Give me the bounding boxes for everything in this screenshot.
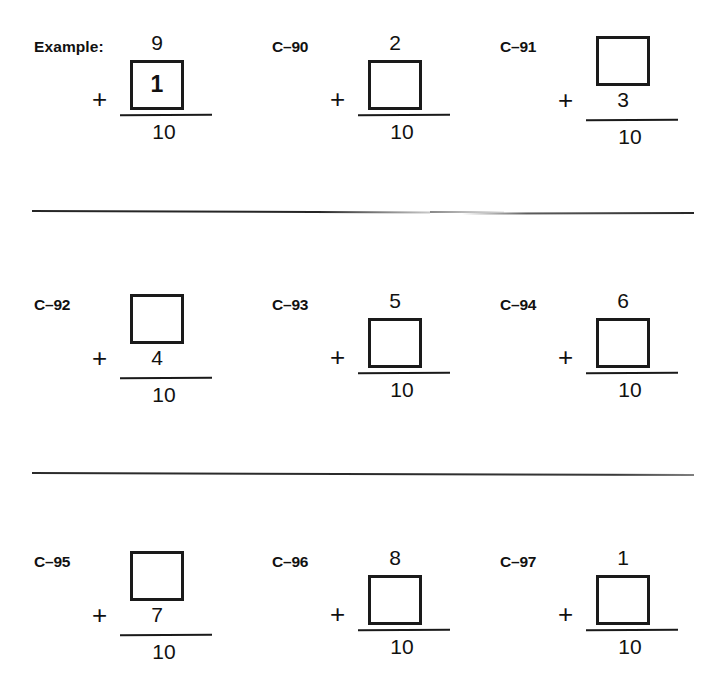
problem-c-93: C–93 5 + 10 — [272, 288, 487, 423]
problem-label: C–92 — [34, 296, 70, 314]
addend-bottom: 4 — [126, 345, 188, 371]
plus-sign: + — [92, 602, 107, 628]
sum-value: 10 — [590, 377, 670, 403]
problem-c-90: C–90 2 + 10 — [272, 30, 487, 165]
addend-top: 8 — [364, 545, 426, 571]
addend-bottom: 3 — [592, 87, 654, 113]
bottom-term-row: + 3 — [592, 87, 702, 115]
plus-sign: + — [92, 345, 107, 371]
top-term-row: 6 — [592, 288, 702, 316]
sum-rule — [586, 119, 678, 121]
problem-stack: 2 + 10 — [364, 30, 474, 145]
bottom-term-row: + 4 — [126, 345, 236, 373]
plus-sign: + — [558, 87, 573, 113]
sum-value: 10 — [362, 377, 442, 403]
plus-sign: + — [330, 86, 345, 112]
bottom-term-row: + 1 — [126, 60, 236, 110]
answer-box[interactable]: 1 — [130, 60, 184, 110]
answer-box[interactable] — [130, 551, 184, 601]
problem-label: C–93 — [272, 296, 308, 314]
problem-stack: 8 + 10 — [364, 545, 474, 660]
problem-c-91: C–91 + 3 10 — [500, 30, 715, 165]
bottom-term-row: + — [364, 60, 474, 110]
problem-label: C–95 — [34, 553, 70, 571]
divider-segment — [32, 472, 694, 476]
divider-segment — [430, 211, 504, 213]
problem-label: C–90 — [272, 38, 308, 56]
problem-stack: + 4 10 — [126, 288, 236, 408]
problem-stack: + 3 10 — [592, 30, 702, 150]
problem-stack: 5 + 10 — [364, 288, 474, 403]
sum-value: 10 — [362, 634, 442, 660]
sum-rule — [358, 114, 450, 116]
sum-value: 10 — [124, 382, 204, 408]
sum-rule — [586, 372, 678, 374]
sum-rule — [586, 629, 678, 631]
plus-sign: + — [558, 344, 573, 370]
top-term-row: 8 — [364, 545, 474, 573]
answer-box[interactable] — [368, 575, 422, 625]
answer-box[interactable] — [596, 575, 650, 625]
sum-rule — [120, 634, 212, 636]
problem-c-92: C–92 + 4 10 — [34, 288, 249, 423]
addend-top: 2 — [364, 30, 426, 56]
answer-box[interactable] — [596, 36, 650, 86]
plus-sign: + — [330, 344, 345, 370]
answer-box[interactable] — [368, 318, 422, 368]
sum-value: 10 — [590, 124, 670, 150]
problem-c-95: C–95 + 7 10 — [34, 545, 249, 680]
addend-bottom: 7 — [126, 602, 188, 628]
worksheet-sheet: Example: 9 + 1 10 C–90 2 + — [0, 0, 723, 694]
sum-value: 10 — [124, 639, 204, 665]
top-term-row — [126, 294, 236, 344]
plus-sign: + — [558, 601, 573, 627]
problem-stack: 6 + 10 — [592, 288, 702, 403]
plus-sign: + — [330, 601, 345, 627]
problem-c-96: C–96 8 + 10 — [272, 545, 487, 680]
problem-c-97: C–97 1 + 10 — [500, 545, 715, 680]
problem-stack: 9 + 1 10 — [126, 30, 236, 145]
answer-box[interactable] — [130, 294, 184, 344]
problem-label: C–97 — [500, 553, 536, 571]
section-divider-2 — [32, 472, 694, 475]
sum-rule — [358, 629, 450, 631]
addend-top: 1 — [592, 545, 654, 571]
bottom-term-row: + — [592, 318, 702, 368]
top-term-row — [126, 551, 236, 601]
top-term-row: 9 — [126, 30, 236, 58]
addend-top: 6 — [592, 288, 654, 314]
bottom-term-row: + — [364, 575, 474, 625]
answer-box-value: 1 — [133, 73, 181, 96]
problem-label: C–96 — [272, 553, 308, 571]
sum-value: 10 — [362, 119, 442, 145]
bottom-term-row: + — [592, 575, 702, 625]
divider-segment — [32, 210, 430, 213]
divider-segment — [462, 212, 694, 214]
sum-rule — [358, 372, 450, 374]
top-term-row — [592, 36, 702, 86]
sum-rule — [120, 114, 212, 116]
top-term-row: 1 — [592, 545, 702, 573]
problem-c-94: C–94 6 + 10 — [500, 288, 715, 423]
bottom-term-row: + 7 — [126, 602, 236, 630]
problem-label: Example: — [34, 38, 104, 56]
addend-top: 9 — [126, 30, 188, 56]
problem-label: C–91 — [500, 38, 536, 56]
top-term-row: 2 — [364, 30, 474, 58]
problem-stack: + 7 10 — [126, 545, 236, 665]
sum-value: 10 — [590, 634, 670, 660]
problem-example: Example: 9 + 1 10 — [34, 30, 249, 165]
answer-box[interactable] — [368, 60, 422, 110]
addend-top: 5 — [364, 288, 426, 314]
answer-box[interactable] — [596, 318, 650, 368]
plus-sign: + — [92, 86, 107, 112]
bottom-term-row: + — [364, 318, 474, 368]
sum-rule — [120, 377, 212, 379]
section-divider-1 — [32, 210, 694, 213]
problem-stack: 1 + 10 — [592, 545, 702, 660]
problem-label: C–94 — [500, 296, 536, 314]
top-term-row: 5 — [364, 288, 474, 316]
sum-value: 10 — [124, 119, 204, 145]
